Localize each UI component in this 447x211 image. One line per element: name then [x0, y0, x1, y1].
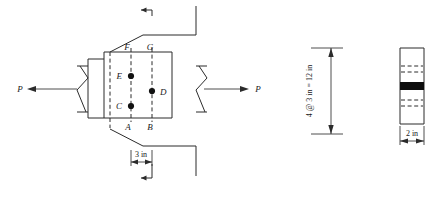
- label-f: F: [123, 42, 130, 52]
- label-g: G: [147, 42, 154, 52]
- dim-label-2in: 2 in: [406, 129, 418, 138]
- label-load-left: P: [16, 84, 23, 94]
- section-view-thickness: [400, 48, 424, 124]
- section-critical-band: [400, 82, 424, 90]
- plate-body-fill: [104, 52, 172, 118]
- dim-arrow-right-icon: [145, 160, 152, 165]
- section-cut-top: [141, 6, 196, 35]
- figure-canvas: F G E C D A B P P: [0, 0, 447, 211]
- dimension-horizontal-pitch: 3 in: [131, 150, 152, 166]
- arrow-left-icon: [27, 86, 36, 92]
- hole-dot-d: [149, 88, 155, 94]
- label-e: E: [116, 71, 123, 81]
- dim-arrow-left-icon-thickness: [400, 139, 408, 144]
- dim-arrow-right-icon-thickness: [416, 139, 424, 144]
- dim-arrow-left-icon: [131, 160, 138, 165]
- arrow-up-icon: [328, 48, 333, 57]
- load-arrow-right: P: [204, 84, 261, 94]
- label-d: D: [159, 87, 167, 97]
- arrow-left-icon-top: [141, 8, 147, 13]
- label-b: B: [147, 122, 153, 132]
- dim-label-vertical: 4 @ 3 in = 12 in: [305, 65, 314, 117]
- plate-lower-chamfer: [110, 129, 196, 146]
- section-cut-bottom: [141, 164, 152, 180]
- hole-dot-e: [128, 73, 134, 79]
- hole-dot-c: [128, 103, 134, 109]
- label-a: A: [124, 122, 131, 132]
- label-load-right: P: [254, 84, 261, 94]
- engineering-figure: F G E C D A B P P: [0, 0, 447, 211]
- dimension-thickness: 2 in: [400, 126, 424, 145]
- break-left-zigzag: [77, 66, 88, 112]
- dimension-vertical-total: 4 @ 3 in = 12 in: [305, 48, 343, 134]
- load-arrow-left: P: [16, 84, 77, 94]
- break-symbol-left: [77, 66, 88, 112]
- label-c: C: [116, 101, 123, 111]
- arrow-down-icon: [328, 125, 333, 134]
- arrow-right-icon: [240, 86, 249, 92]
- arrow-left-icon-bottom: [141, 176, 147, 181]
- dim-label-3in: 3 in: [135, 150, 147, 159]
